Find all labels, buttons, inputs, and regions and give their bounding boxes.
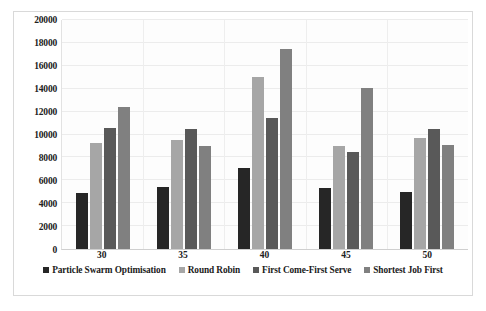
plot-area — [61, 20, 468, 250]
y-axis: 2000018000160001400012000100008000600040… — [14, 12, 61, 256]
legend-label: Particle Swarm Optimisation — [52, 265, 166, 275]
bar — [347, 152, 359, 249]
bar — [157, 187, 169, 249]
bar — [280, 49, 292, 249]
y-axis-tick-label: 16000 — [34, 61, 57, 71]
bars-layer — [62, 20, 468, 249]
plot-wrapper: 2000018000160001400012000100008000600040… — [14, 12, 472, 256]
bar — [266, 118, 278, 249]
legend-swatch-icon — [179, 267, 185, 273]
bar — [104, 128, 116, 249]
legend-item[interactable]: Particle Swarm Optimisation — [43, 265, 166, 275]
legend-item[interactable]: Shortest Job First — [364, 265, 442, 275]
y-axis-tick-label: 20000 — [34, 15, 57, 25]
bar-group — [143, 20, 224, 249]
y-axis-tick-label: 8000 — [39, 153, 57, 163]
bar — [199, 146, 211, 249]
legend-swatch-icon — [364, 267, 370, 273]
bar — [118, 107, 130, 249]
chart-legend: Particle Swarm OptimisationRound RobinFi… — [14, 262, 472, 278]
legend-swatch-icon — [43, 267, 49, 273]
y-axis-tick-label: 2000 — [39, 222, 57, 232]
legend-swatch-icon — [253, 267, 259, 273]
y-axis-tick-label: 6000 — [39, 176, 57, 186]
bar — [90, 143, 102, 249]
bar — [414, 138, 426, 249]
bar — [400, 192, 412, 249]
legend-item[interactable]: Round Robin — [179, 265, 240, 275]
y-axis-tick-label: 0 — [52, 245, 57, 255]
bar — [252, 77, 264, 249]
bar — [428, 129, 440, 249]
y-axis-tick-label: 4000 — [39, 199, 57, 209]
y-axis-tick-label: 14000 — [34, 84, 57, 94]
bar — [185, 129, 197, 249]
legend-label: Shortest Job First — [373, 265, 442, 275]
bar — [319, 188, 331, 249]
bar-group — [62, 20, 143, 249]
y-axis-tick-label: 18000 — [34, 38, 57, 48]
bar — [442, 145, 454, 249]
bar — [361, 88, 373, 249]
y-axis-tick-label: 12000 — [34, 107, 57, 117]
y-axis-tick-label: 10000 — [34, 130, 57, 140]
bar-group — [387, 20, 468, 249]
bar — [333, 146, 345, 249]
legend-item[interactable]: First Come-First Serve — [253, 265, 351, 275]
bar-group — [306, 20, 387, 249]
bar-chart-figure: 2000018000160001400012000100008000600040… — [13, 11, 473, 296]
bar — [238, 168, 250, 249]
legend-label: First Come-First Serve — [262, 265, 351, 275]
legend-label: Round Robin — [188, 265, 240, 275]
bar — [171, 140, 183, 249]
bar — [76, 193, 88, 249]
bar-group — [224, 20, 305, 249]
